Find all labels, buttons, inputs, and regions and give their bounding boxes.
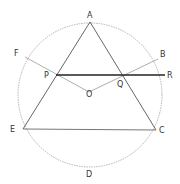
label-R: R xyxy=(167,71,173,80)
geometry-diagram: A F B P Q R O E C D xyxy=(0,0,180,184)
side-AC xyxy=(90,22,156,130)
label-P: P xyxy=(44,71,49,80)
label-E: E xyxy=(10,125,15,134)
label-A: A xyxy=(87,11,93,20)
label-D: D xyxy=(86,170,92,179)
label-Q: Q xyxy=(117,80,123,89)
label-C: C xyxy=(159,126,165,135)
label-O: O xyxy=(86,90,92,99)
label-F: F xyxy=(14,49,19,58)
label-B: B xyxy=(160,50,166,59)
side-EC xyxy=(23,129,156,130)
